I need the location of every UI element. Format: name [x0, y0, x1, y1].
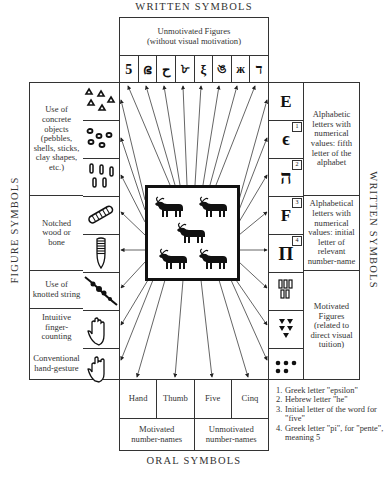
glyph-char: ה — [280, 166, 292, 189]
glyph-F: F3 — [269, 197, 303, 235]
label-concrete-objects: Use of concrete objects (pebbles, shells… — [30, 83, 83, 196]
title-line-2: (without visual motivation) — [147, 37, 241, 47]
footnote-num: 3. — [276, 405, 285, 424]
glyph-cell: ד — [250, 56, 268, 83]
glyph-hebrew-he: ה2 — [269, 159, 303, 197]
pebbles-icon — [83, 83, 119, 121]
glyph-cell: ح — [157, 56, 176, 83]
glyph-cell: ঙ — [213, 56, 232, 83]
five-oxen-icon — [145, 185, 240, 281]
footnote-text: Initial letter of the word for "five" — [285, 405, 386, 424]
knotted-string-icon — [83, 273, 119, 311]
glyph-char: E — [280, 92, 291, 112]
glyph-char: F — [281, 206, 291, 226]
footnote-2: 2.Hebrew letter "he" — [276, 395, 386, 404]
glyph-cell: ξ — [195, 56, 214, 83]
shells-icon — [83, 121, 119, 159]
unmotivated-figures-box: Unmotivated Figures (without visual moti… — [119, 17, 269, 83]
footnote-text: Hebrew letter "he" — [285, 395, 348, 404]
label-hand-gesture: Conventional hand-gesture — [30, 346, 83, 381]
glyph-epsilon-E: E — [269, 83, 303, 121]
label-knotted-string: Use of knotted string — [30, 271, 83, 309]
glyph-epsilon-lunate: ϵ1 — [269, 121, 303, 159]
figure-symbols-icons — [83, 82, 120, 380]
written-symbols-glyphs: E ϵ1 ה2 F3 Π4 — [268, 82, 304, 380]
footnote-marker: 3 — [292, 198, 302, 208]
dots-icon — [269, 349, 303, 385]
number-words-row: Hand Thumb Five Cinq — [120, 380, 268, 419]
sticks-icon — [83, 159, 119, 197]
label-motivated-figures: Motivated Figures (related to direct vis… — [304, 271, 359, 381]
label-alphabetic-initial-letter: Alphabetical letters with numerical valu… — [304, 196, 359, 271]
word-cinq: Cinq — [232, 380, 268, 418]
oral-symbols-box: Hand Thumb Five Cinq Motivated number-na… — [119, 379, 269, 451]
word-thumb: Thumb — [157, 380, 194, 418]
glyph-cell: 5 — [120, 56, 139, 83]
written-symbols-labels: Alphabetic letters with numerical values… — [303, 82, 360, 380]
notched-wood-icon — [83, 197, 119, 235]
footnote-num: 2. — [276, 395, 285, 404]
label-finger-counting: Intuitive finger-counting — [30, 309, 83, 346]
footnote-num: 4. — [276, 424, 285, 443]
unmotivated-figures-title: Unmotivated Figures (without visual moti… — [120, 18, 268, 56]
footnote-num: 1. — [276, 386, 285, 395]
glyph-pi: Π4 — [269, 235, 303, 273]
footnote-marker: 2 — [292, 160, 302, 170]
figure-symbols-labels: Use of concrete objects (pebbles, shells… — [29, 82, 84, 380]
unmotivated-glyph-row: 5 ഭ ح ৮ ξ ঙ ж ד — [120, 56, 268, 83]
label-motivated-number-names: Motivated number-names — [120, 419, 195, 451]
footnote-4: 4.Greek letter "pi", for "pente", meanin… — [276, 424, 386, 443]
glyph-char: ϵ — [282, 129, 290, 150]
glyph-cell: ৮ — [176, 56, 195, 83]
footnote-1: 1.Greek letter "epsilon" — [276, 386, 386, 395]
notched-bone-icon — [83, 235, 119, 273]
footnote-marker: 4 — [292, 236, 302, 246]
glyph-cell: ഭ — [139, 56, 158, 83]
label-unmotivated-number-names: Unmotivated number-names — [195, 419, 269, 451]
cuneiform-marks-icon — [269, 311, 303, 349]
footnote-text: Greek letter "pi", for "pente", meaning … — [285, 424, 386, 443]
footnote-text: Greek letter "epsilon" — [285, 386, 358, 395]
footnote-3: 3.Initial letter of the word for "five" — [276, 405, 386, 424]
word-hand: Hand — [120, 380, 157, 418]
label-alphabetic-fifth-letter: Alphabetic letters with numerical values… — [304, 83, 359, 196]
tally-strokes-icon — [269, 273, 303, 311]
label-notched-wood: Notched wood or bone — [30, 196, 83, 271]
number-names-row: Motivated number-names Unmotivated numbe… — [120, 419, 268, 451]
footnotes: 1.Greek letter "epsilon" 2.Hebrew letter… — [276, 386, 386, 442]
word-five: Five — [195, 380, 232, 418]
open-hand-icon — [83, 311, 119, 349]
glyph-cell: ж — [232, 56, 251, 83]
footnote-marker: 1 — [292, 122, 302, 132]
hand-gesture-icon — [83, 349, 119, 385]
